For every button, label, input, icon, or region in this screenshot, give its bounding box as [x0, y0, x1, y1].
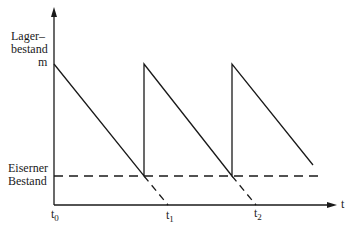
depletion-extension-t1	[144, 176, 168, 205]
m-tick-label: m	[38, 56, 47, 69]
t0-sub: 0	[54, 213, 59, 223]
inventory-sawtooth-diagram	[0, 0, 354, 229]
y-axis-label: Lager– bestand	[11, 30, 48, 56]
t2-label: t2	[254, 207, 262, 221]
t2-sub: 2	[257, 212, 262, 222]
y-axis-arrow-icon	[51, 7, 57, 17]
inventory-level-line	[54, 64, 313, 176]
x-axis-label: t	[341, 198, 344, 211]
x-axis-arrow-icon	[327, 202, 337, 208]
t1-sub: 1	[169, 214, 174, 224]
safety-stock-label: Eiserner Bestand	[8, 162, 48, 188]
t0-label: t0	[51, 208, 59, 222]
safety-stock-label-line2: Bestand	[8, 175, 48, 188]
depletion-extension-t2	[232, 176, 256, 205]
t1-label: t1	[166, 209, 174, 223]
